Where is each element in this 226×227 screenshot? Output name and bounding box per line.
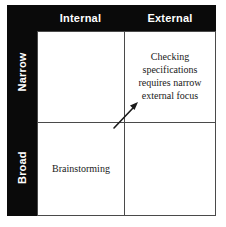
attention-focus-matrix: Internal External Narrow Broad Checking … <box>0 0 226 227</box>
horizontal-divider <box>38 122 215 123</box>
column-header-external: External <box>124 5 216 31</box>
cell-narrow-internal <box>38 32 124 122</box>
cell-broad-external <box>125 123 215 215</box>
row-header-broad: Broad <box>7 122 37 216</box>
quadrant-grid: Checking specifications requires narrow … <box>37 31 216 216</box>
cell-narrow-external-text: Checking specifications requires narrow … <box>129 51 211 102</box>
cell-broad-internal-text: Brainstorming <box>52 163 110 176</box>
row-header-narrow: Narrow <box>7 31 37 122</box>
cell-broad-internal: Brainstorming <box>38 123 124 215</box>
column-header-internal: Internal <box>37 5 124 31</box>
cell-narrow-external: Checking specifications requires narrow … <box>125 32 215 122</box>
vertical-divider <box>124 32 125 215</box>
